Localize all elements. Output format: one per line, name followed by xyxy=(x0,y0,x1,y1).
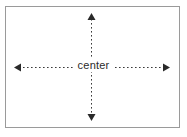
center-label: center xyxy=(0,58,187,72)
arrowhead-up-icon xyxy=(88,13,96,20)
diagram-canvas: center xyxy=(0,0,187,137)
arrowhead-down-icon xyxy=(88,114,96,121)
center-label-text: center xyxy=(73,58,115,72)
